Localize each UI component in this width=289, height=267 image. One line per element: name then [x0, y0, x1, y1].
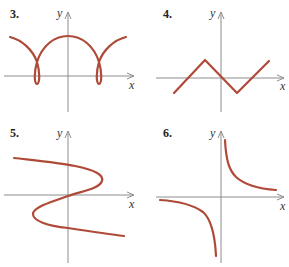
graphs-figure: 3. y x 4. y x 5. y x 6. y x: [0, 0, 289, 267]
panel-4: 4. y x: [156, 6, 286, 112]
hyperbola-branch-positive: [225, 140, 276, 190]
s-curve: [14, 158, 124, 236]
y-axis-label: y: [56, 126, 63, 140]
panel-number: 3.: [10, 7, 19, 21]
x-axis-label: x: [128, 78, 135, 92]
panel-5: 5. y x: [4, 126, 135, 263]
y-axis-label: y: [56, 6, 63, 20]
panel-number: 6.: [163, 126, 172, 140]
x-axis-label: x: [279, 199, 286, 213]
panel-number: 5.: [10, 126, 19, 140]
panel-3: 3. y x: [4, 6, 135, 112]
y-axis-label: y: [209, 6, 216, 20]
panel-number: 4.: [163, 7, 172, 21]
x-axis-label: x: [128, 197, 135, 211]
x-axis-label: x: [279, 79, 286, 93]
hyperbola-branch-negative: [160, 200, 216, 256]
y-axis-label: y: [209, 126, 216, 140]
panel-6: 6. y x: [156, 126, 286, 263]
